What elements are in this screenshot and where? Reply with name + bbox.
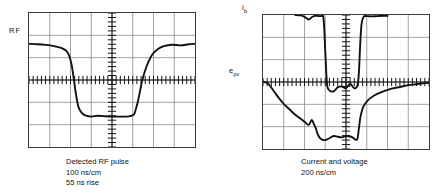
oscilloscope-display-current-voltage xyxy=(262,14,430,150)
graticule-right xyxy=(262,14,430,150)
ib-label-subscript: b xyxy=(244,8,247,14)
caption-left-line2: 100 ns/cm xyxy=(66,168,129,179)
caption-right-line2: 200 ns/cm xyxy=(301,168,368,179)
graticule-left xyxy=(28,12,196,148)
graticule-left-svg xyxy=(29,13,195,147)
rf-label: RF xyxy=(9,26,21,35)
caption-right: Current and voltage 200 ns/cm xyxy=(301,157,368,178)
ib-label: ib xyxy=(242,3,247,14)
epv-label-subscript: pv xyxy=(233,71,239,77)
epv-label: epv xyxy=(229,66,239,77)
center-axis-ticks-left xyxy=(29,13,195,147)
caption-left-line1: Detected RF pulse xyxy=(66,157,129,168)
scope-panel-left: RF Detected RF pulse 100 ns/cm 55 ns ris… xyxy=(0,0,221,196)
caption-left: Detected RF pulse 100 ns/cm 55 ns rise xyxy=(66,157,129,189)
caption-left-line3: 55 ns rise xyxy=(66,178,129,189)
center-axis-ticks-right xyxy=(263,15,429,149)
caption-right-line1: Current and voltage xyxy=(301,157,368,168)
graticule-right-svg xyxy=(263,15,429,149)
oscilloscope-display-rf xyxy=(28,12,196,148)
